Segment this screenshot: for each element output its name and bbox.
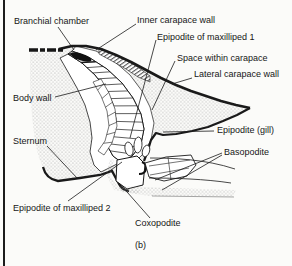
label-lateral-carapace-wall: Lateral carapace wall	[194, 69, 279, 79]
label-epipodite-of-maxilliped-2: Epipodite of maxilliped 2	[13, 203, 111, 213]
label-coxopodite: Coxopodite	[135, 218, 181, 228]
label-epipodite-of-maxilliped-1: Epipodite of maxilliped 1	[157, 32, 255, 42]
limb-stipple-strip	[119, 186, 236, 197]
label-body-wall: Body wall	[13, 93, 52, 103]
figure-branchial-chamber-diagram: Branchial chamberInner carapace wallEpip…	[0, 0, 292, 266]
label-inner-carapace-wall: Inner carapace wall	[137, 15, 215, 25]
leader-line-inner-carapace-wall	[96, 24, 136, 50]
gill-lamella	[81, 62, 96, 63]
leader-line-lateral-carapace-wall	[172, 78, 192, 84]
label-epipodite-gill: Epipodite (gill)	[217, 125, 274, 135]
label-branchial-chamber: Branchial chamber	[14, 16, 89, 26]
label-space-within-carapace: Space within carapace	[177, 53, 268, 63]
label-sternum: Sternum	[13, 136, 47, 146]
figure-caption: (b)	[135, 240, 146, 250]
label-basopodite: Basopodite	[224, 147, 269, 157]
